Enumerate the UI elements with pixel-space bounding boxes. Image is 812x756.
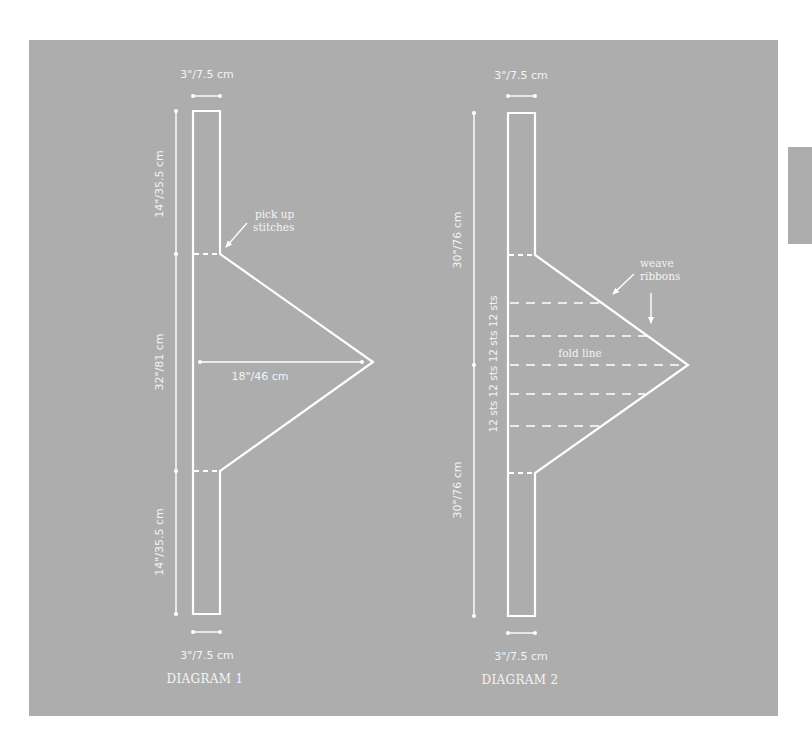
d1-top-width-line bbox=[191, 94, 222, 98]
d2-top-width-line bbox=[506, 94, 537, 98]
schematic-drawings: 3"/7.5 cm 14"/35.5 cm 32"/81 cm 14"/35.5… bbox=[0, 0, 812, 756]
d1-middle-length-label: 32"/81 cm bbox=[153, 333, 166, 390]
d1-bottom-width-label: 3"/7.5 cm bbox=[180, 649, 234, 662]
d1-depth-measure bbox=[198, 360, 364, 364]
d1-callout-line2: stitches bbox=[253, 221, 294, 233]
d2-callout-line2: ribbons bbox=[640, 270, 680, 282]
diagram-2: 3"/7.5 cm 30"/76 cm 30"/76 cm 12 sts 12 … bbox=[451, 69, 688, 687]
d1-depth-label: 18"/46 cm bbox=[231, 370, 288, 383]
d1-callout-arrow-icon bbox=[226, 223, 247, 247]
d1-bottom-width-line bbox=[191, 630, 222, 634]
d2-bottom-width-label: 3"/7.5 cm bbox=[494, 650, 548, 663]
d2-callout-arrow-diagonal-icon bbox=[613, 274, 634, 294]
d2-bottom-length-label: 30"/76 cm bbox=[451, 461, 464, 518]
d1-top-length-label: 14"/35.5 cm bbox=[153, 150, 166, 218]
d2-bottom-width-line bbox=[506, 631, 537, 635]
d1-top-width-label: 3"/7.5 cm bbox=[180, 68, 234, 81]
d1-bottom-length-label: 14"/35.5 cm bbox=[153, 508, 166, 576]
d2-fold-label: fold line bbox=[558, 347, 601, 359]
d2-stitch-sections-label: 12 sts 12 sts 12 sts 12 sts bbox=[487, 295, 499, 432]
d2-callout-line1: weave bbox=[640, 257, 674, 269]
diagram-1: 3"/7.5 cm 14"/35.5 cm 32"/81 cm 14"/35.5… bbox=[153, 68, 373, 686]
d1-length-measure bbox=[174, 109, 178, 616]
d2-top-length-label: 30"/76 cm bbox=[451, 211, 464, 268]
d2-title: DIAGRAM 2 bbox=[482, 673, 559, 687]
d1-title: DIAGRAM 1 bbox=[167, 672, 244, 686]
d2-length-measure bbox=[472, 111, 476, 618]
d2-top-width-label: 3"/7.5 cm bbox=[494, 69, 548, 82]
d1-callout-line1: pick up bbox=[255, 208, 294, 220]
